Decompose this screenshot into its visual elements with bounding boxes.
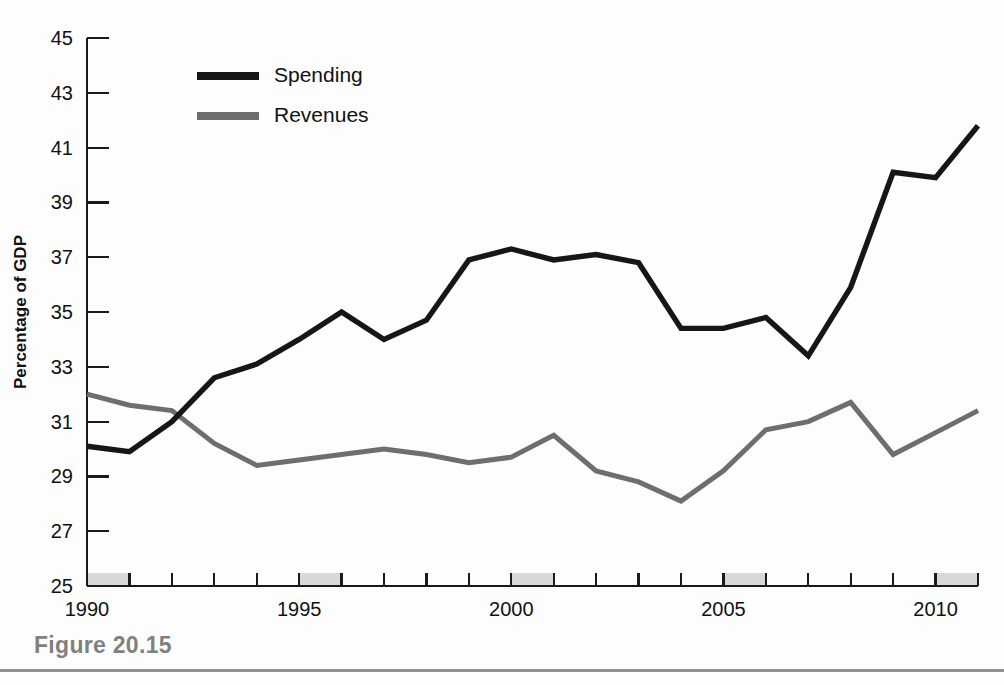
y-tick-label-33: 33 — [51, 356, 73, 378]
x-tick-label-2000: 2000 — [489, 598, 534, 620]
recession-band-2005 — [723, 573, 765, 586]
x-tick-label-2005: 2005 — [701, 598, 746, 620]
recession-band-1990 — [87, 573, 129, 586]
legend-label-revenues: Revenues — [274, 103, 369, 126]
x-tick-label-1990: 1990 — [65, 598, 110, 620]
y-tick-label-37: 37 — [51, 246, 73, 268]
recession-band-1995 — [299, 573, 341, 586]
legend-label-spending: Spending — [274, 63, 363, 86]
y-tick-label-39: 39 — [51, 191, 73, 213]
legend-swatch-revenues — [197, 112, 259, 120]
figure-container: 2527293133353739414345 19901995200020052… — [0, 0, 1004, 685]
y-tick-label-25: 25 — [51, 575, 73, 597]
y-axis-ticks-group: 2527293133353739414345 — [51, 27, 109, 597]
x-tick-label-1995: 1995 — [277, 598, 322, 620]
chart-area: 2527293133353739414345 19901995200020052… — [0, 0, 1004, 625]
recession-bands-group — [87, 573, 978, 586]
y-tick-label-35: 35 — [51, 301, 73, 323]
y-tick-label-29: 29 — [51, 465, 73, 487]
chart-legend: Spending Revenues — [197, 63, 369, 126]
recession-band-2010 — [936, 573, 978, 586]
recession-band-2000 — [511, 573, 553, 586]
series-line-revenues — [87, 394, 978, 501]
y-tick-label-31: 31 — [51, 411, 73, 433]
caption-divider — [0, 669, 1004, 672]
y-axis-title: Percentage of GDP — [11, 235, 30, 389]
figure-caption-block: Figure 20.15 — [0, 628, 1004, 685]
y-tick-label-43: 43 — [51, 82, 73, 104]
y-tick-label-41: 41 — [51, 137, 73, 159]
figure-caption-label: Figure 20.15 — [34, 632, 172, 659]
legend-swatch-spending — [197, 72, 259, 80]
line-chart: 2527293133353739414345 19901995200020052… — [0, 0, 1004, 625]
y-tick-label-45: 45 — [51, 27, 73, 49]
x-tick-label-2010: 2010 — [913, 598, 958, 620]
y-tick-label-27: 27 — [51, 520, 73, 542]
